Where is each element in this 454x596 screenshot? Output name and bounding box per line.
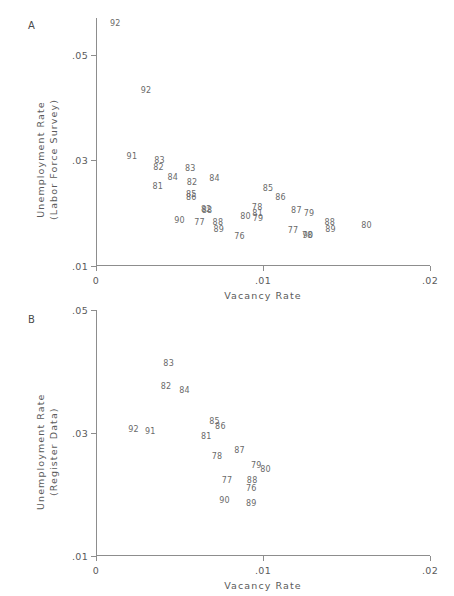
panel-a-plot-area: Vacancy Rate .05.03.010.01.0292929183828… (96, 18, 430, 266)
data-point-label: 82 (161, 383, 172, 391)
data-point-label: 76 (234, 233, 245, 241)
data-point-label: 86 (215, 423, 226, 431)
data-point-label: 87 (291, 207, 302, 215)
data-point-label: 88 (202, 207, 213, 215)
y-axis-tick-label: .03 (72, 155, 88, 166)
data-point-label: 87 (234, 447, 245, 455)
panel-b-y-axis-title-line1: Unemployment Rate (34, 393, 47, 510)
data-point-label: 86 (275, 194, 286, 202)
panel-b: B Unemployment Rate (Register Data) Vaca… (0, 300, 454, 596)
panel-a-y-axis-title-line2: (Labor Force Survey) (47, 99, 60, 220)
data-point-label: 84 (179, 387, 190, 395)
x-axis-tick (430, 266, 431, 271)
data-point-label: 91 (127, 153, 138, 161)
x-axis-tick-label: .02 (422, 275, 438, 286)
data-point-label: 92 (141, 87, 152, 95)
data-point-label: 89 (325, 226, 336, 234)
y-axis-tick (91, 55, 96, 56)
panel-a-y-axis-title-line1: Unemployment Rate (34, 99, 47, 220)
data-point-label: 84 (209, 175, 220, 183)
y-axis-tick-label: .01 (72, 261, 88, 272)
x-axis-tick (96, 556, 97, 561)
y-axis-tick-label: .05 (72, 305, 88, 316)
y-axis-tick (91, 160, 96, 161)
data-point-label: 83 (163, 360, 174, 368)
data-point-label: 77 (288, 227, 299, 235)
panel-b-y-axis-title: Unemployment Rate (Register Data) (34, 393, 60, 510)
y-axis-tick-label: .03 (72, 428, 88, 439)
data-point-label: 78 (212, 453, 223, 461)
panel-a-letter: A (28, 20, 35, 31)
panel-a: A Unemployment Rate (Labor Force Survey)… (0, 0, 454, 300)
x-axis-tick-label: .02 (422, 565, 438, 576)
panel-b-y-axis-line (96, 310, 97, 556)
panel-b-y-axis-title-line2: (Register Data) (47, 393, 60, 510)
data-point-label: 82 (187, 179, 198, 187)
data-point-label: 80 (240, 213, 251, 221)
data-point-label: 91 (145, 428, 156, 436)
panel-b-plot-area: Vacancy Rate .05.03.010.01.0283828485869… (96, 310, 430, 556)
y-axis-tick (91, 433, 96, 434)
x-axis-tick (263, 266, 264, 271)
y-axis-tick-label: .01 (72, 551, 88, 562)
data-point-label: 80 (361, 222, 372, 230)
data-point-label: 77 (222, 477, 233, 485)
x-axis-tick (430, 556, 431, 561)
data-point-label: 84 (168, 174, 179, 182)
x-axis-tick-label: 0 (93, 275, 99, 286)
data-point-label: 85 (263, 185, 274, 193)
data-point-label: 76 (246, 485, 257, 493)
data-point-label: 83 (185, 165, 196, 173)
data-point-label: 82 (153, 164, 164, 172)
panel-b-letter: B (28, 314, 35, 325)
panel-a-y-axis-title: Unemployment Rate (Labor Force Survey) (34, 99, 60, 220)
data-point-label: 77 (194, 219, 205, 227)
data-point-label: 81 (152, 183, 163, 191)
data-point-label: 81 (201, 433, 212, 441)
x-axis-tick-label: 0 (93, 565, 99, 576)
data-point-label: 89 (246, 500, 257, 508)
data-point-label: 80 (260, 466, 271, 474)
panel-a-y-axis-line (96, 18, 97, 266)
data-point-label: 89 (213, 226, 224, 234)
x-axis-tick (96, 266, 97, 271)
data-point-label: 90 (303, 232, 314, 240)
data-point-label: 79 (304, 210, 315, 218)
x-axis-tick-label: .01 (255, 275, 271, 286)
data-point-label: 92 (128, 426, 139, 434)
data-point-label: 90 (219, 497, 230, 505)
x-axis-tick (263, 556, 264, 561)
data-point-label: 92 (110, 20, 121, 28)
y-axis-tick (91, 310, 96, 311)
y-axis-tick-label: .05 (72, 49, 88, 60)
data-point-label: 79 (253, 215, 264, 223)
data-point-label: 90 (174, 217, 185, 225)
data-point-label: 86 (186, 194, 197, 202)
panel-b-x-axis-title: Vacancy Rate (224, 580, 302, 591)
x-axis-tick-label: .01 (255, 565, 271, 576)
